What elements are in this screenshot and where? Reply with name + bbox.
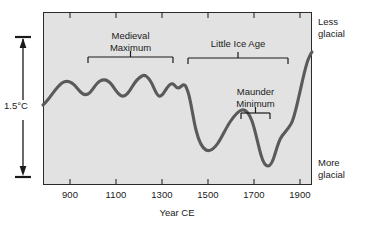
medieval-maximum-label-line2: Maximum bbox=[110, 42, 151, 53]
y-scale-label: 1.5°C bbox=[4, 100, 28, 111]
x-axis-ticks bbox=[70, 179, 300, 185]
x-tick-label-1900: 1900 bbox=[280, 189, 320, 200]
more-glacial-label-line1: More bbox=[318, 157, 340, 168]
maunder-minimum-label-line1: Maunder bbox=[237, 86, 275, 97]
maunder-minimum-label: Maunder Minimum bbox=[206, 86, 306, 109]
more-glacial-label: More glacial bbox=[318, 157, 345, 180]
less-glacial-label: Less glacial bbox=[318, 16, 345, 39]
x-tick-label-1100: 1100 bbox=[96, 189, 136, 200]
more-glacial-label-line2: glacial bbox=[318, 169, 345, 180]
little-ice-age-bracket bbox=[188, 52, 288, 64]
glacial-proxy-curve bbox=[43, 52, 312, 166]
climate-chart-figure: 1.5°C Less glacial More glacial Medieval… bbox=[0, 0, 371, 228]
x-tick-label-900: 900 bbox=[50, 189, 90, 200]
less-glacial-label-line2: glacial bbox=[318, 28, 345, 39]
x-tick-label-1300: 1300 bbox=[142, 189, 182, 200]
x-tick-label-1500: 1500 bbox=[188, 189, 228, 200]
x-axis-top-ticks bbox=[70, 12, 300, 18]
less-glacial-label-line1: Less bbox=[318, 16, 338, 27]
x-axis-title: Year CE bbox=[117, 207, 237, 218]
maunder-minimum-label-line2: Minimum bbox=[236, 98, 275, 109]
little-ice-age-label: Little Ice Age bbox=[188, 38, 288, 50]
little-ice-age-label-line1: Little Ice Age bbox=[211, 38, 265, 49]
medieval-maximum-label-line1: Medieval bbox=[111, 30, 149, 41]
x-tick-label-1700: 1700 bbox=[234, 189, 274, 200]
medieval-maximum-label: Medieval Maximum bbox=[71, 30, 191, 53]
